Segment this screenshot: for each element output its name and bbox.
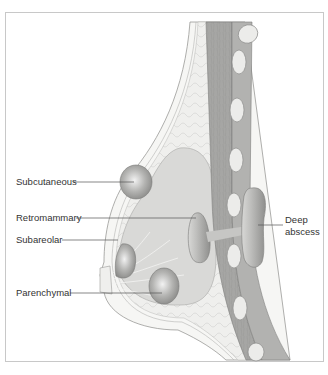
label-deep-abscess-line2: abscess	[285, 226, 320, 238]
label-subareolar: Subareolar	[16, 234, 62, 246]
label-subcutaneous: Subcutaneous	[16, 176, 77, 188]
parenchymal-abscess	[149, 268, 179, 304]
deep-abscess	[242, 188, 266, 267]
nipple	[100, 266, 112, 294]
label-deep-abscess: Deep abscess	[285, 214, 320, 238]
label-deep-abscess-line1: Deep	[285, 214, 320, 226]
label-parenchymal: Parenchymal	[16, 287, 71, 299]
label-retromammary: Retromammary	[16, 212, 81, 224]
